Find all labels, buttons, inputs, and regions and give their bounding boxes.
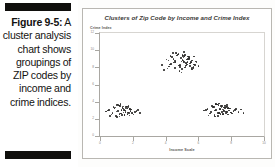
scatter-point: [193, 56, 195, 58]
scatter-point: [209, 113, 211, 115]
x-axis-tick-label: 8: [226, 142, 236, 145]
scatter-point: [130, 110, 132, 112]
y-axis-tick: [95, 136, 99, 137]
chart-title: Clusters of Zip Code by Income and Crime…: [83, 14, 271, 21]
scatter-point: [175, 52, 177, 54]
scatter-point: [107, 110, 109, 112]
scatter-point: [109, 115, 111, 117]
scatter-point: [112, 112, 114, 114]
scatter-point: [129, 115, 131, 117]
scatter-point: [139, 112, 141, 114]
scatter-point: [228, 110, 230, 112]
scatter-point: [212, 106, 214, 108]
x-axis-tick-label: 4: [161, 142, 171, 145]
x-axis-tick-label: 2: [128, 142, 138, 145]
scatter-point: [196, 62, 198, 64]
y-axis-tick-label: 4: [84, 100, 94, 103]
y-axis-tick: [95, 85, 99, 86]
scatter-point: [169, 64, 171, 66]
scatter-point: [178, 53, 180, 55]
scatter-point: [168, 66, 170, 68]
y-axis-tick: [95, 119, 99, 120]
chart-panel: Clusters of Zip Code by Income and Crime…: [82, 8, 272, 159]
scatter-point: [215, 109, 217, 111]
scatter-point: [203, 110, 205, 112]
scatter-point: [218, 104, 220, 106]
scatter-point: [220, 113, 222, 115]
y-axis-tick-label: 6: [84, 83, 94, 86]
figure-container: Figure 9-5: A cluster analysis chart sho…: [0, 0, 275, 167]
scatter-point: [119, 105, 121, 107]
scatter-point: [124, 114, 126, 116]
y-axis-tick: [95, 50, 99, 51]
scatter-point: [168, 60, 170, 62]
scatter-point: [181, 72, 183, 74]
x-axis-label: Income Scale: [99, 148, 265, 152]
scatter-point: [163, 69, 165, 71]
caption-rule-top: [5, 3, 71, 11]
scatter-point: [218, 103, 220, 105]
y-axis-tick-label: 12: [84, 31, 94, 34]
scatter-point: [215, 103, 217, 105]
scatter-point: [208, 115, 210, 117]
x-axis-tick-label: 10: [259, 142, 269, 145]
scatter-point: [222, 114, 224, 116]
scatter-point: [172, 52, 174, 54]
scatter-point: [121, 114, 123, 116]
y-axis-tick: [95, 33, 99, 34]
caption-panel: Figure 9-5: A cluster analysis chart sho…: [0, 0, 78, 167]
scatter-point: [105, 111, 107, 113]
scatter-point: [189, 57, 191, 59]
scatter-point: [225, 112, 227, 114]
y-axis-tick-label: 8: [84, 66, 94, 69]
scatter-point: [191, 60, 193, 62]
scatter-point: [116, 116, 118, 118]
x-axis-tick-label: 0: [95, 142, 105, 145]
y-axis-tick: [95, 67, 99, 68]
scatter-point: [193, 64, 195, 66]
scatter-point: [218, 112, 220, 114]
scatter-point: [166, 59, 168, 61]
scatter-point: [205, 109, 207, 111]
scatter-point: [221, 111, 223, 113]
scatter-point: [220, 105, 222, 107]
scatter-point: [191, 69, 193, 71]
y-axis-tick: [95, 102, 99, 103]
caption-rule-bottom: [5, 151, 71, 159]
scatter-point: [243, 112, 245, 114]
scatter-point: [125, 111, 127, 113]
y-axis-tick-label: 10: [84, 48, 94, 51]
scatter-point: [227, 114, 229, 116]
figure-number: Figure 9-5:: [11, 16, 62, 28]
scatter-point: [210, 111, 212, 113]
scatter-point: [180, 64, 182, 66]
scatter-point: [207, 108, 209, 110]
scatter-point: [217, 115, 219, 117]
x-axis-tick-label: 6: [193, 142, 203, 145]
y-axis-tick-label: 2: [84, 117, 94, 120]
scatter-point: [120, 103, 122, 105]
figure-caption-body: A cluster analysis chart shows groupings…: [3, 16, 71, 108]
scatter-point: [174, 67, 176, 69]
scatter-point: [183, 51, 185, 53]
scatter-point: [227, 108, 229, 110]
scatter-point: [114, 107, 116, 109]
figure-caption: Figure 9-5: A cluster analysis chart sho…: [2, 16, 71, 109]
scatter-point: [119, 116, 121, 118]
scatter-point: [133, 114, 135, 116]
scatter-point: [174, 60, 176, 62]
scatter-point: [195, 61, 197, 63]
scatter-plot-area: [100, 33, 264, 136]
scatter-point: [189, 63, 191, 65]
scatter-point: [240, 109, 242, 111]
scatter-point: [161, 64, 163, 66]
scatter-point: [214, 116, 216, 118]
scatter-point: [219, 108, 221, 110]
scatter-point: [238, 111, 240, 113]
scatter-point: [136, 110, 138, 112]
scatter-point: [117, 110, 119, 112]
scatter-point: [183, 61, 185, 63]
scatter-point: [198, 65, 200, 67]
scatter-point: [234, 109, 236, 111]
scatter-point: [187, 61, 189, 63]
